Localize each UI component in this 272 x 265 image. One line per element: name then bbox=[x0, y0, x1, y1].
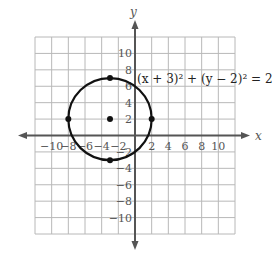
y-axis-down-arrow-icon bbox=[132, 241, 139, 250]
y-axis-label: y bbox=[129, 5, 137, 19]
x-axis-label: x bbox=[255, 129, 262, 143]
x-axis-left-arrow-icon bbox=[18, 132, 27, 139]
x-axis-right-arrow-icon bbox=[241, 132, 250, 139]
point-left bbox=[65, 116, 71, 122]
x-tick-label: 4 bbox=[165, 140, 172, 153]
x-tick-label: 10 bbox=[211, 140, 225, 153]
x-tick-label: 8 bbox=[198, 140, 205, 153]
axes bbox=[18, 20, 250, 250]
y-tick-label: 4 bbox=[125, 97, 132, 110]
y-tick-label: 10 bbox=[118, 47, 132, 60]
y-tick-label: 8 bbox=[125, 64, 132, 77]
point-top bbox=[107, 75, 113, 81]
x-tick-label: 6 bbox=[182, 140, 189, 153]
circle-graph: −10−8−6−4−2246810108642−2−4−6−8−10 x y (… bbox=[0, 0, 272, 265]
y-tick-label: −8 bbox=[116, 195, 132, 208]
y-axis-up-arrow-icon bbox=[132, 20, 139, 29]
equation-annotation: (x + 3)² + (y − 2)² = 25 bbox=[137, 72, 272, 86]
x-tick-label: 2 bbox=[148, 140, 155, 153]
point-center bbox=[107, 116, 113, 122]
y-tick-label: −10 bbox=[109, 212, 132, 225]
y-tick-label: −6 bbox=[116, 179, 132, 192]
x-tick-label: −4 bbox=[94, 140, 110, 153]
point-right bbox=[149, 116, 155, 122]
point-bottom bbox=[107, 157, 113, 163]
y-tick-label: 2 bbox=[125, 113, 132, 126]
y-tick-label: −4 bbox=[116, 162, 132, 175]
